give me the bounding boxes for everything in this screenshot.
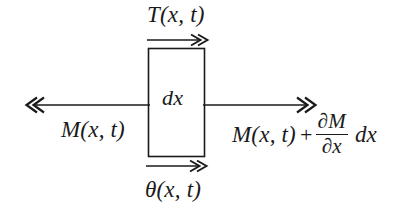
partial-derivative-fraction: ∂M ∂x bbox=[316, 111, 348, 158]
diagram-canvas bbox=[0, 0, 420, 214]
fraction-numerator: ∂M bbox=[316, 111, 348, 134]
plus-operator: + bbox=[296, 124, 315, 146]
right-moment-dx: dx bbox=[349, 123, 377, 146]
left-moment-label: M(x, t) bbox=[61, 118, 125, 141]
top-shear-arrow bbox=[147, 35, 208, 46]
bottom-rotation-label: θ(x, t) bbox=[145, 178, 201, 201]
right-moment-term: M(x, t) bbox=[232, 123, 296, 146]
right-moment-label: M(x, t) + ∂M ∂x dx bbox=[232, 111, 377, 158]
element-width-label: dx bbox=[162, 87, 183, 109]
bottom-rotation-arrow bbox=[146, 161, 207, 172]
beam-element-diagram: T(x, t) dx M(x, t) M(x, t) + ∂M ∂x dx θ(… bbox=[0, 0, 420, 214]
left-moment-arrow bbox=[27, 98, 151, 113]
top-shear-label: T(x, t) bbox=[147, 3, 205, 26]
fraction-denominator: ∂x bbox=[320, 135, 344, 158]
